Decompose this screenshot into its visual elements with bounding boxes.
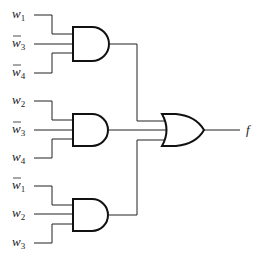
label-g1-in1: w1 (12, 6, 25, 23)
or-gate (162, 114, 204, 146)
label-g1-in3: w4 (12, 64, 26, 81)
wire-g3-in1 (34, 186, 73, 205)
wire-g1-in3 (34, 53, 73, 73)
label-g2-in2: w3 (12, 121, 26, 138)
label-g3-in3: w3 (12, 234, 26, 251)
and-gate-3-group: w1 w2 w3 (12, 177, 108, 251)
and-gate-3 (73, 199, 108, 231)
label-g2-in1: w2 (12, 92, 25, 109)
and-gate-2 (73, 114, 108, 146)
wire-g3-out (108, 140, 166, 215)
and-gate-2-group: w2 w3 w4 (12, 92, 108, 166)
label-g1-in2: w3 (12, 35, 26, 52)
wire-g2-in1 (34, 101, 73, 120)
wire-g1-out (109, 44, 166, 121)
label-g3-in1: w1 (12, 177, 25, 194)
logic-circuit-diagram: w1 w3 w4 w2 w3 w4 w1 w2 w3 f (0, 0, 263, 261)
wire-g2-in3 (34, 139, 73, 158)
and-gate-1-group: w1 w3 w4 (12, 6, 109, 81)
output-label-f: f (246, 122, 252, 137)
wire-g3-in3 (34, 224, 73, 243)
wire-g1-in1 (34, 15, 73, 34)
and-gate-1 (73, 27, 109, 61)
label-g3-in2: w2 (12, 205, 25, 222)
label-g2-in3: w4 (12, 149, 26, 166)
